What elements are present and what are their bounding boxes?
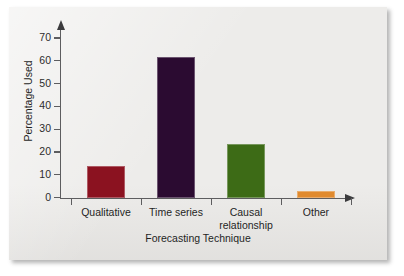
bar-highlight-edge (87, 166, 125, 198)
bar (297, 191, 335, 198)
x-axis-tick (281, 198, 282, 205)
y-axis-tick (54, 83, 61, 84)
y-axis-tick-label: 10 (15, 168, 51, 180)
y-axis-tick (54, 60, 61, 61)
x-axis-category-label: Time series (141, 206, 211, 219)
y-axis-tick (54, 151, 61, 152)
bar-highlight-edge (157, 57, 195, 197)
bar (87, 166, 125, 198)
x-axis-tick (71, 198, 72, 205)
y-axis-arrowhead-icon (57, 20, 65, 30)
y-axis-tick (54, 37, 61, 38)
bar (227, 144, 265, 198)
figure-frame: 010203040506070 QualitativeTime seriesCa… (9, 7, 387, 260)
x-axis-tick (211, 198, 212, 205)
bar-chart-plot-area: 010203040506070 QualitativeTime seriesCa… (9, 7, 387, 260)
y-axis-tick-label: 0 (15, 191, 51, 203)
y-axis-tick (54, 197, 61, 198)
x-axis-line (60, 198, 346, 199)
y-axis-tick (54, 106, 61, 107)
y-axis-title: Percentage Used (22, 36, 34, 166)
x-axis-title: Forecasting Technique (9, 232, 387, 244)
y-axis-tick (54, 174, 61, 175)
bar (157, 57, 195, 197)
bar-highlight-edge (297, 191, 335, 198)
x-axis-tick (351, 198, 352, 205)
x-axis-category-label: Qualitative (71, 206, 141, 219)
x-axis-tick (141, 198, 142, 205)
x-axis-category-label: Other (281, 206, 351, 219)
x-axis-category-label: Causal relationship (211, 206, 281, 231)
bar-highlight-edge (227, 144, 265, 198)
y-axis-tick (54, 129, 61, 130)
x-axis-arrowhead-icon (345, 194, 355, 202)
